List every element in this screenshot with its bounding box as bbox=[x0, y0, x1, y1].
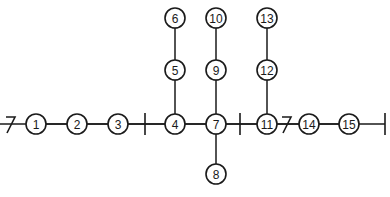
node-label: 15 bbox=[342, 118, 356, 132]
node-label: 13 bbox=[260, 12, 274, 26]
node-1: 1 bbox=[26, 114, 46, 134]
node-9: 9 bbox=[206, 60, 226, 80]
edges bbox=[0, 18, 385, 174]
node-label: 4 bbox=[172, 118, 179, 132]
node-label: 9 bbox=[213, 64, 220, 78]
node-label: 7 bbox=[213, 118, 220, 132]
node-6: 6 bbox=[165, 8, 185, 28]
node-3: 3 bbox=[108, 114, 128, 134]
network-diagram: 123456789101112131415 bbox=[0, 0, 390, 197]
node-13: 13 bbox=[257, 8, 277, 28]
node-10: 10 bbox=[206, 8, 226, 28]
node-15: 15 bbox=[339, 114, 359, 134]
node-label: 10 bbox=[209, 12, 223, 26]
node-label: 1 bbox=[33, 118, 40, 132]
node-label: 14 bbox=[302, 118, 316, 132]
node-label: 6 bbox=[172, 12, 179, 26]
node-label: 8 bbox=[213, 168, 220, 182]
seven-slash-marker bbox=[282, 117, 291, 133]
node-label: 12 bbox=[260, 64, 274, 78]
node-12: 12 bbox=[257, 60, 277, 80]
node-label: 11 bbox=[261, 118, 274, 132]
node-label: 5 bbox=[172, 64, 179, 78]
node-label: 2 bbox=[74, 118, 81, 132]
node-2: 2 bbox=[67, 114, 87, 134]
node-7: 7 bbox=[206, 114, 226, 134]
node-5: 5 bbox=[165, 60, 185, 80]
node-4: 4 bbox=[165, 114, 185, 134]
node-8: 8 bbox=[206, 164, 226, 184]
node-label: 3 bbox=[115, 118, 122, 132]
node-11: 11 bbox=[257, 114, 277, 134]
seven-slash-marker bbox=[6, 117, 15, 133]
node-14: 14 bbox=[299, 114, 319, 134]
nodes: 123456789101112131415 bbox=[26, 8, 359, 184]
